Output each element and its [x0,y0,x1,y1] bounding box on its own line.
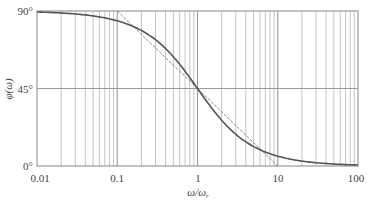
x-tick-0.01: 0.01 [30,172,49,184]
x-axis-label-sub: r [206,192,209,200]
x-tick-1: 1 [195,172,201,184]
x-axis-label-main: ω/ω [187,186,206,198]
x-tick-0.1: 0.1 [110,172,124,184]
y-tick-90: 90° [18,5,33,17]
y-tick-45: 45° [18,83,33,95]
x-axis-label: ω/ωr [187,186,209,200]
x-tick-10: 10 [273,172,285,184]
x-tick-100: 100 [348,172,365,184]
y-tick-0: 0° [23,160,33,172]
y-axis-label: φ(ω) [2,78,15,100]
phase-plot: 90° 45° 0° 0.01 0.1 1 10 100 φ(ω) ω/ωr [0,0,374,201]
